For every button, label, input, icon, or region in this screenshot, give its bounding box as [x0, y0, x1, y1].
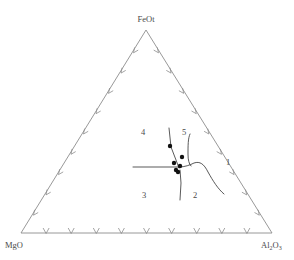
- field-label-5: 5: [182, 127, 186, 137]
- tick-right-6: [217, 149, 222, 154]
- tick-right-7: [229, 169, 234, 174]
- tick-left-9: [34, 210, 39, 215]
- tick-right-5: [204, 129, 209, 134]
- data-point: [168, 144, 172, 148]
- boundary-right-curve: [179, 162, 224, 194]
- tick-right-1: [154, 47, 159, 52]
- triangle-outline: [21, 30, 272, 233]
- tick-left-2: [121, 68, 126, 73]
- tick-left-4: [96, 108, 101, 113]
- triangle-edge-left: [21, 30, 146, 233]
- vertex-label-bottom-right: Al2O3: [261, 240, 282, 251]
- ternary-plot-svg: FeOt MgO Al2O3 4 5 3 2 1: [0, 0, 294, 260]
- tick-left-3: [109, 88, 114, 93]
- triangle-edge-right: [146, 30, 272, 233]
- tick-right-2: [166, 68, 171, 73]
- tick-right-3: [179, 88, 184, 93]
- data-point: [178, 164, 182, 168]
- boundary-lower-vertical: [180, 170, 181, 200]
- tick-left-8: [46, 190, 51, 195]
- data-point: [180, 155, 184, 159]
- field-label-2: 2: [193, 190, 197, 200]
- field-label-4: 4: [141, 127, 146, 137]
- field-label-1: 1: [226, 157, 230, 167]
- field-label-3: 3: [142, 190, 146, 200]
- field-boundaries: [133, 128, 224, 200]
- tick-right-9: [255, 210, 260, 215]
- vertex-label-sub-3: 3: [279, 245, 282, 251]
- boundary-field5-hook: [188, 134, 191, 166]
- ternary-diagram-figure: FeOt MgO Al2O3 4 5 3 2 1: [0, 0, 294, 260]
- data-point: [172, 161, 176, 165]
- vertex-label-top: FeOt: [138, 14, 156, 24]
- tick-left-6: [71, 149, 76, 154]
- data-point: [176, 170, 180, 174]
- tick-group-left: [34, 47, 139, 215]
- tick-right-8: [242, 190, 247, 195]
- tick-left-7: [59, 169, 64, 174]
- tick-left-1: [134, 47, 139, 52]
- vertex-label-bottom-left: MgO: [5, 240, 23, 250]
- tick-left-5: [84, 129, 89, 134]
- tick-right-4: [192, 108, 197, 113]
